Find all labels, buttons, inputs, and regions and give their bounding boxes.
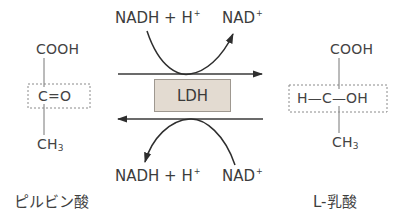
lactate-ch3: CH3 xyxy=(332,134,359,151)
bottom-nadh-label: NADH + H+ xyxy=(115,167,200,185)
top-nadh-label: NADH + H+ xyxy=(115,9,200,27)
bottom-cofactor-arrow xyxy=(145,119,235,165)
top-nad-label: NAD+ xyxy=(222,9,263,27)
bottom-nad-label: NAD+ xyxy=(222,167,263,185)
lactate-cooh: COOH xyxy=(330,41,373,57)
pyruvate-name: ピルビン酸 xyxy=(14,190,89,211)
lactate-hydroxyl-carbon: H—C—OH xyxy=(297,90,368,106)
lactate-name: L-乳酸 xyxy=(313,190,357,211)
pyruvate-carbonyl: C=O xyxy=(38,88,71,104)
pyruvate-cooh: COOH xyxy=(36,41,79,57)
pyruvate-ch3: CH3 xyxy=(37,136,64,153)
ldh-label: LDH xyxy=(177,87,208,105)
top-cofactor-arrow xyxy=(147,31,233,74)
ldh-enzyme-box: LDH xyxy=(154,79,231,112)
